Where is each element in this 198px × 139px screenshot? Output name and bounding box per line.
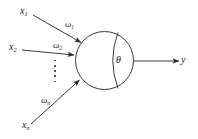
weight-label-w1: ω1 — [65, 20, 74, 30]
input-arrow-n — [31, 80, 80, 124]
input-label-xn: xn — [22, 120, 30, 131]
neuron-diagram-canvas — [0, 0, 198, 139]
threshold-label-theta: θ — [116, 55, 121, 65]
input-label-x2: x2 — [9, 42, 17, 53]
weight-label-w2: ω2 — [53, 41, 62, 51]
vertical-ellipsis — [52, 60, 58, 82]
neuron-diagram: x1 x2 xn ω1 ω2 ωn θ y — [0, 0, 198, 139]
output-label-y: y — [181, 55, 185, 65]
neuron-soma-circle — [76, 32, 134, 90]
weight-label-wn: ωn — [41, 96, 50, 106]
input-arrow-2 — [22, 50, 74, 55]
input-label-x1: x1 — [20, 6, 28, 17]
